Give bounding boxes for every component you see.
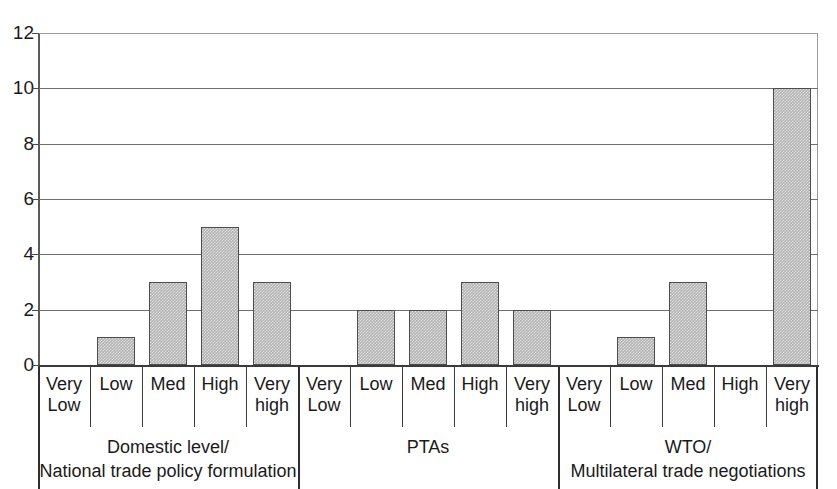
plot-area — [38, 33, 818, 365]
category-label-band: VeryLowLowMedHighVeryhighDomestic level/… — [38, 367, 819, 489]
category-label-line1: Med — [662, 374, 714, 395]
x-tick-mark — [90, 367, 91, 375]
bar — [357, 310, 395, 365]
y-tick-mark-8 — [32, 144, 39, 145]
category-separator — [714, 369, 715, 427]
x-tick-mark — [454, 367, 455, 375]
category-label: VeryLow — [38, 367, 90, 429]
y-axis: 121086420 — [0, 0, 34, 489]
category-label-line2: Low — [558, 395, 610, 416]
bar — [773, 88, 811, 365]
y-tick-label-6: 6 — [0, 189, 34, 208]
bar — [461, 282, 499, 365]
x-tick-mark — [350, 367, 351, 375]
category-label-line1: High — [714, 374, 766, 395]
category-label: Med — [662, 367, 714, 429]
y-tick-mark-0 — [32, 365, 39, 366]
category-label-line1: High — [194, 374, 246, 395]
category-label: High — [194, 367, 246, 429]
group-label-line1: WTO/ — [558, 435, 818, 459]
bar — [617, 337, 655, 365]
category-separator — [90, 369, 91, 427]
category-separator — [662, 369, 663, 427]
x-tick-mark — [506, 367, 507, 375]
bar — [513, 310, 551, 365]
category-label: Low — [610, 367, 662, 429]
y-tick-label-10: 10 — [0, 78, 34, 97]
category-label-line2: high — [506, 395, 558, 416]
group-label: PTAs — [298, 435, 558, 459]
y-tick-label-0: 0 — [0, 355, 34, 374]
category-label-line1: Low — [350, 374, 402, 395]
bar — [201, 227, 239, 365]
category-label-line2: Low — [38, 395, 90, 416]
category-label-line1: Very — [766, 374, 818, 395]
category-label-line1: Very — [298, 374, 350, 395]
category-separator — [142, 369, 143, 427]
y-tick-mark-4 — [32, 254, 39, 255]
category-label: Low — [350, 367, 402, 429]
category-label-line1: Very — [506, 374, 558, 395]
y-tick-mark-12 — [32, 33, 39, 34]
category-label-line2: high — [766, 395, 818, 416]
y-tick-mark-10 — [32, 88, 39, 89]
x-tick-mark — [194, 367, 195, 375]
category-label: High — [714, 367, 766, 429]
y-tick-mark-6 — [32, 199, 39, 200]
gridline-6 — [38, 199, 818, 200]
category-label-line1: Low — [90, 374, 142, 395]
category-separator — [610, 369, 611, 427]
category-label: Med — [402, 367, 454, 429]
gridline-12 — [38, 33, 818, 34]
category-separator — [766, 369, 767, 427]
category-label-line1: High — [454, 374, 506, 395]
category-label-line2: Low — [298, 395, 350, 416]
x-tick-mark — [766, 367, 767, 375]
category-label: High — [454, 367, 506, 429]
bar — [97, 337, 135, 365]
bar — [149, 282, 187, 365]
caption-remnant — [0, 478, 837, 489]
y-tick-label-12: 12 — [0, 23, 34, 42]
category-separator — [194, 369, 195, 427]
category-label-line1: Very — [246, 374, 298, 395]
group-label-line1: Domestic level/ — [38, 435, 298, 459]
bar — [253, 282, 291, 365]
category-separator — [402, 369, 403, 427]
bar-chart: 121086420 VeryLowLowMedHighVeryhighDomes… — [0, 0, 837, 489]
category-label: VeryLow — [558, 367, 610, 429]
x-tick-mark — [402, 367, 403, 375]
category-label-line1: Med — [402, 374, 454, 395]
y-tick-mark-2 — [32, 310, 39, 311]
category-separator — [350, 369, 351, 427]
group-label-line1: PTAs — [298, 435, 558, 459]
category-separator — [454, 369, 455, 427]
category-label-line1: Med — [142, 374, 194, 395]
y-tick-label-2: 2 — [0, 300, 34, 319]
y-tick-label-8: 8 — [0, 134, 34, 153]
category-label: Veryhigh — [506, 367, 558, 429]
category-label-line1: Low — [610, 374, 662, 395]
category-label: Low — [90, 367, 142, 429]
group-label: Domestic level/National trade policy for… — [38, 435, 298, 483]
gridline-10 — [38, 88, 818, 89]
category-label-line1: Very — [558, 374, 610, 395]
category-label: Med — [142, 367, 194, 429]
category-label: VeryLow — [298, 367, 350, 429]
gridline-4 — [38, 254, 818, 255]
bar — [669, 282, 707, 365]
group-separator — [298, 367, 300, 489]
x-tick-mark — [662, 367, 663, 375]
group-label: WTO/Multilateral trade negotiations — [558, 435, 818, 483]
gridline-8 — [38, 144, 818, 145]
x-tick-mark — [714, 367, 715, 375]
category-separator — [506, 369, 507, 427]
bar — [409, 310, 447, 365]
y-tick-label-4: 4 — [0, 244, 34, 263]
category-label: Veryhigh — [246, 367, 298, 429]
category-label-line2: high — [246, 395, 298, 416]
x-tick-mark — [246, 367, 247, 375]
category-separator — [246, 369, 247, 427]
category-label-line1: Very — [38, 374, 90, 395]
x-tick-mark — [610, 367, 611, 375]
